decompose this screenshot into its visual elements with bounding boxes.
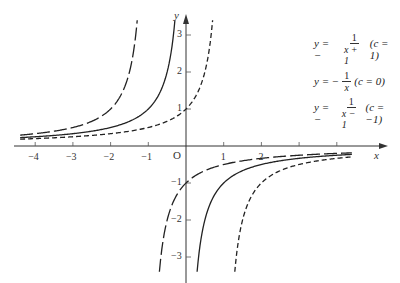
fraction: 1x − 1 xyxy=(340,96,363,130)
denominator: x − 1 xyxy=(340,108,363,130)
y-axis-label: y xyxy=(174,10,179,20)
origin-label: O xyxy=(173,150,181,160)
fraction: 1x xyxy=(342,70,351,93)
denominator: x xyxy=(343,82,351,93)
equation-param: (c = 0) xyxy=(354,75,385,87)
numerator: 1 xyxy=(342,70,351,82)
curve-long-dash xyxy=(20,20,137,135)
x-tick-label: 1 xyxy=(221,152,226,162)
y-tick-label: 3 xyxy=(177,29,182,39)
y-tick-label: −2 xyxy=(171,214,182,224)
equation-param: (c = 1) xyxy=(370,37,400,61)
legend-equation: y = − 1x + 1 (c = 1) xyxy=(314,34,400,64)
denominator: x + 1 xyxy=(342,44,367,66)
legend-item-c0: y = − 1x (c = 0) xyxy=(240,66,400,96)
equation-prefix: y = − xyxy=(314,37,339,61)
numerator: 1 xyxy=(350,32,359,44)
x-axis-label: x xyxy=(374,150,379,160)
curve-solid xyxy=(20,20,175,137)
curve-long-dash xyxy=(159,153,351,272)
curve-solid xyxy=(197,154,352,271)
x-tick-label: −4 xyxy=(28,152,39,162)
curve-short-dash xyxy=(20,20,212,139)
x-tick-label: −2 xyxy=(104,152,115,162)
x-tick-label: −3 xyxy=(66,152,77,162)
x-tick-label: −1 xyxy=(141,152,152,162)
y-tick-label: 2 xyxy=(177,66,182,76)
numerator: 1 xyxy=(347,96,356,108)
y-tick-label: 1 xyxy=(177,103,182,113)
y-tick-label: −1 xyxy=(171,177,182,187)
fraction: 1x + 1 xyxy=(342,32,367,66)
x-axis-arrow-icon xyxy=(379,143,388,149)
curve-short-dash xyxy=(235,157,352,272)
equation-prefix: y = − xyxy=(314,101,337,125)
legend-item-c1: y = − 1x + 1 (c = 1) xyxy=(240,34,400,64)
equation-prefix: y = − xyxy=(314,75,339,87)
y-axis-arrow-icon xyxy=(183,14,189,24)
legend-equation: y = − 1x (c = 0) xyxy=(314,66,385,96)
x-tick-label: 2 xyxy=(258,152,263,162)
legend-item-cminus1: y = − 1x − 1 (c = −1) xyxy=(240,98,400,128)
legend-equation: y = − 1x − 1 (c = −1) xyxy=(314,98,400,128)
y-tick-label: −3 xyxy=(171,251,182,261)
equation-param: (c = −1) xyxy=(366,101,400,125)
